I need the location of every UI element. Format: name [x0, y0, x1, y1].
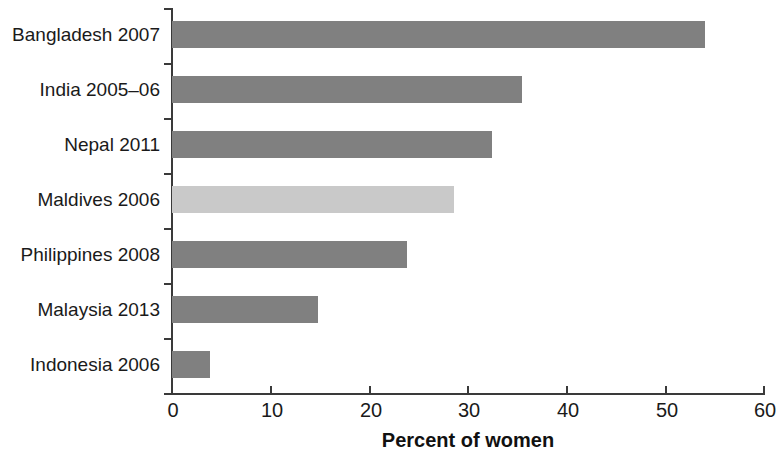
bar-malaysia [172, 296, 318, 323]
y-axis-tick [164, 63, 172, 65]
bar-philippines [172, 241, 407, 268]
x-axis-tick-label-60: 60 [735, 398, 780, 422]
bar-maldives [172, 186, 454, 213]
category-label-india: India 2005–06 [0, 79, 160, 101]
bar-india [172, 76, 522, 103]
plot-area: Bangladesh 2007 India 2005–06 Nepal 2011… [0, 0, 780, 457]
y-axis-tick [164, 283, 172, 285]
y-axis-tick [164, 338, 172, 340]
category-label-nepal: Nepal 2011 [0, 134, 160, 156]
category-label-maldives: Maldives 2006 [0, 189, 160, 211]
x-axis-tick [171, 386, 173, 394]
y-axis-tick [164, 228, 172, 230]
bar-chart: Bangladesh 2007 India 2005–06 Nepal 2011… [0, 0, 780, 457]
x-axis-tick-label-40: 40 [538, 398, 598, 422]
category-label-malaysia: Malaysia 2013 [0, 299, 160, 321]
x-axis-tick-label-20: 20 [341, 398, 401, 422]
y-axis-tick [164, 173, 172, 175]
x-axis-tick [566, 386, 568, 394]
x-axis-tick-label-10: 10 [242, 398, 302, 422]
bar-nepal [172, 131, 492, 158]
category-label-philippines: Philippines 2008 [0, 244, 160, 266]
y-axis-tick [164, 8, 172, 10]
bar-indonesia [172, 351, 210, 378]
x-axis-tick-label-30: 30 [439, 398, 499, 422]
x-axis-tick [763, 386, 765, 394]
category-label-bangladesh: Bangladesh 2007 [0, 24, 160, 46]
x-axis-tick [467, 386, 469, 394]
x-axis-tick-label-0: 0 [143, 398, 203, 422]
x-axis-title: Percent of women [171, 428, 765, 452]
y-axis-tick [164, 118, 172, 120]
x-axis-tick-label-50: 50 [637, 398, 697, 422]
category-label-indonesia: Indonesia 2006 [0, 354, 160, 376]
x-axis-tick [665, 386, 667, 394]
x-axis-tick [270, 386, 272, 394]
bar-bangladesh [172, 21, 705, 48]
x-axis-tick [369, 386, 371, 394]
